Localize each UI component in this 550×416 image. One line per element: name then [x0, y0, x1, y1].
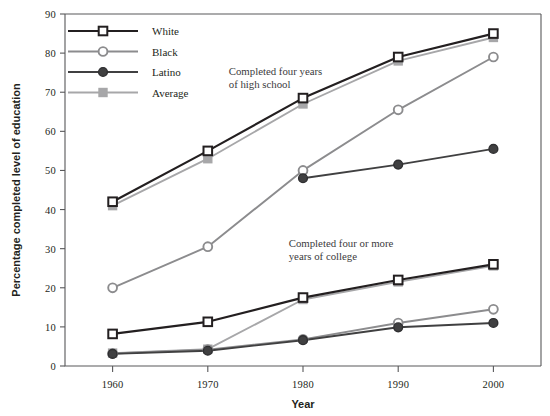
annotation-2-line1: Completed four or more [289, 237, 394, 249]
marker-white-1990 [394, 276, 403, 285]
marker-latino-1990 [394, 323, 403, 332]
line-black-group2 [113, 309, 494, 353]
legend-marker-white [99, 27, 108, 36]
x-tick-label-1990: 1990 [387, 379, 409, 390]
annotation-2-line2: years of college [289, 250, 358, 262]
legend-item-white[interactable]: White [68, 25, 179, 37]
legend-item-latino[interactable]: Latino [68, 66, 181, 78]
y-tick-label-70: 70 [45, 87, 56, 98]
education-attainment-line-chart: 010203040506070809019601970198019902000 … [0, 0, 550, 416]
marker-latino-2000 [489, 319, 498, 328]
data-lines [113, 34, 494, 354]
y-tick-label-0: 0 [51, 361, 56, 372]
legend-marker-average [99, 89, 107, 97]
marker-black-1970 [203, 242, 212, 251]
marker-white-1980 [299, 293, 308, 302]
x-tick-label-1960: 1960 [102, 379, 124, 390]
chart-svg: 010203040506070809019601970198019902000 … [0, 0, 550, 416]
marker-white-1980 [299, 94, 308, 103]
x-tick-label-2000: 2000 [482, 379, 504, 390]
marker-black-1990 [394, 105, 403, 114]
marker-latino-1990 [394, 160, 403, 169]
marker-latino-1980 [299, 336, 308, 345]
y-tick-label-60: 60 [45, 126, 56, 137]
marker-white-1960 [108, 330, 117, 339]
y-axis-title: Percentage completed level of education [10, 83, 22, 297]
annotation-1-line2: of high school [229, 78, 291, 90]
x-axis-title: Year [291, 398, 315, 410]
legend-marker-latino [99, 68, 108, 77]
marker-latino-1960 [108, 349, 117, 358]
marker-black-2000 [489, 53, 498, 62]
y-tick-label-20: 20 [45, 283, 56, 294]
legend-label-latino: Latino [152, 66, 181, 78]
y-tick-label-80: 80 [45, 48, 56, 59]
marker-latino-1980 [299, 174, 308, 183]
marker-latino-2000 [489, 145, 498, 154]
legend-label-white: White [152, 25, 179, 37]
marker-black-1960 [108, 283, 117, 292]
x-tick-label-1980: 1980 [292, 379, 314, 390]
marker-white-1970 [204, 318, 213, 327]
legend-label-average: Average [152, 87, 189, 99]
marker-latino-1970 [203, 346, 212, 355]
legend: WhiteBlackLatinoAverage [68, 25, 189, 99]
marker-white-1990 [394, 53, 403, 62]
y-tick-label-30: 30 [45, 244, 56, 255]
legend-item-black[interactable]: Black [68, 46, 178, 58]
y-tick-label-10: 10 [45, 322, 56, 333]
marker-white-2000 [489, 260, 498, 269]
data-markers [108, 29, 498, 358]
y-tick-label-90: 90 [45, 9, 56, 20]
marker-white-1970 [204, 147, 213, 156]
marker-white-2000 [489, 29, 498, 38]
legend-label-black: Black [152, 46, 178, 58]
legend-marker-black [99, 47, 108, 56]
marker-black-2000 [489, 305, 498, 314]
annotation-1-line1: Completed four years [229, 65, 323, 77]
y-tick-label-40: 40 [45, 205, 56, 216]
x-tick-label-1970: 1970 [197, 379, 219, 390]
legend-item-average[interactable]: Average [68, 87, 189, 99]
y-tick-label-50: 50 [45, 165, 56, 176]
marker-white-1960 [108, 197, 117, 206]
